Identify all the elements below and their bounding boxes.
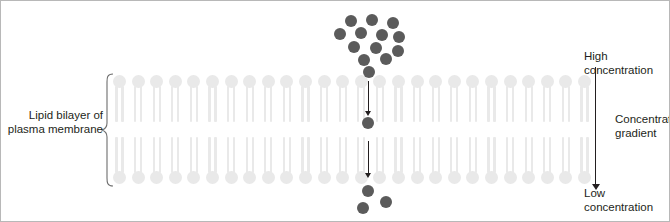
phospholipid-tail bbox=[568, 86, 570, 122]
phospholipid-tail bbox=[233, 137, 235, 173]
phospholipid-tail bbox=[326, 86, 328, 122]
phospholipid bbox=[243, 75, 256, 122]
phospholipid-tail bbox=[438, 137, 440, 173]
solute-particle-above-membrane bbox=[376, 29, 388, 41]
phospholipid-tail bbox=[140, 137, 142, 173]
phospholipid-head-icon bbox=[280, 171, 293, 184]
phospholipid bbox=[448, 75, 461, 122]
phospholipid-tail bbox=[196, 86, 198, 122]
phospholipid-tail bbox=[580, 137, 582, 173]
phospholipid-tail bbox=[196, 137, 198, 173]
phospholipid-head-icon bbox=[225, 171, 238, 184]
solute-particle-above-membrane bbox=[363, 66, 375, 78]
phospholipid-tail bbox=[307, 86, 309, 122]
phospholipid-head-icon bbox=[466, 171, 479, 184]
phospholipid-tail bbox=[382, 86, 384, 122]
phospholipid-tail bbox=[438, 86, 440, 122]
phospholipid-tail bbox=[525, 137, 527, 173]
phospholipid-head-icon bbox=[243, 171, 256, 184]
phospholipid-tail bbox=[283, 86, 285, 122]
phospholipid-tail bbox=[227, 137, 229, 173]
phospholipid bbox=[132, 137, 145, 184]
phospholipid-tail bbox=[214, 137, 216, 173]
phospholipid-tail bbox=[382, 137, 384, 173]
diffusion-arrow-head-icon bbox=[365, 111, 371, 116]
phospholipid-tail bbox=[208, 86, 210, 122]
phospholipid-tail bbox=[586, 86, 588, 122]
solute-particle-above-membrane bbox=[393, 31, 405, 43]
solute-particle-above-membrane bbox=[366, 14, 378, 26]
phospholipid-tail bbox=[153, 86, 155, 122]
solute-particle-above-membrane bbox=[355, 27, 367, 39]
phospholipid-tail bbox=[363, 137, 365, 173]
solute-particle-above-membrane bbox=[387, 17, 399, 29]
phospholipid bbox=[336, 137, 349, 184]
phospholipid-tail bbox=[531, 137, 533, 173]
phospholipid bbox=[299, 75, 312, 122]
phospholipid-tail bbox=[394, 86, 396, 122]
phospholipid-tail bbox=[475, 86, 477, 122]
solute-particle-inside-membrane bbox=[362, 117, 374, 129]
phospholipid-tail bbox=[487, 86, 489, 122]
phospholipid-tail bbox=[450, 86, 452, 122]
phospholipid-tail bbox=[543, 137, 545, 173]
phospholipid bbox=[243, 137, 256, 184]
phospholipid-tail bbox=[345, 137, 347, 173]
phospholipid-tail bbox=[469, 137, 471, 173]
phospholipid bbox=[429, 137, 442, 184]
phospholipid bbox=[504, 137, 517, 184]
phospholipid bbox=[559, 75, 572, 122]
phospholipid-head-icon bbox=[522, 171, 535, 184]
solute-particle-above-membrane bbox=[392, 45, 404, 57]
phospholipid bbox=[485, 75, 498, 122]
phospholipid-tail bbox=[307, 137, 309, 173]
phospholipid-tail bbox=[339, 137, 341, 173]
solute-particle-above-membrane bbox=[345, 15, 357, 27]
phospholipid-tail bbox=[301, 137, 303, 173]
phospholipid-tail bbox=[320, 137, 322, 173]
phospholipid-tail bbox=[419, 137, 421, 173]
phospholipid-tail bbox=[264, 86, 266, 122]
phospholipid-tail bbox=[270, 137, 272, 173]
phospholipid bbox=[559, 137, 572, 184]
phospholipid-tail bbox=[190, 86, 192, 122]
phospholipid-tail bbox=[326, 137, 328, 173]
phospholipid bbox=[150, 137, 163, 184]
bilayer-label: Lipid bilayer of plasma membrane bbox=[7, 109, 103, 136]
phospholipid-tail bbox=[140, 86, 142, 122]
phospholipid bbox=[280, 137, 293, 184]
solute-particle-below-membrane bbox=[362, 185, 374, 197]
phospholipid bbox=[187, 137, 200, 184]
phospholipid-tail bbox=[270, 86, 272, 122]
low-concentration-label: Low concentration bbox=[584, 187, 670, 214]
solute-particle-above-membrane bbox=[358, 54, 370, 66]
phospholipid-tail bbox=[586, 137, 588, 173]
phospholipid bbox=[150, 75, 163, 122]
phospholipid bbox=[522, 75, 535, 122]
phospholipid-tail bbox=[283, 137, 285, 173]
solute-particle-above-membrane bbox=[370, 42, 382, 54]
phospholipid-tail bbox=[469, 86, 471, 122]
phospholipid-tail bbox=[549, 137, 551, 173]
phospholipid bbox=[318, 137, 331, 184]
phospholipid-tail bbox=[543, 86, 545, 122]
diffusion-arrow-head-icon bbox=[365, 173, 371, 178]
solute-particle-below-membrane bbox=[380, 196, 392, 208]
phospholipid-tail bbox=[562, 86, 564, 122]
phospholipid-tail bbox=[208, 137, 210, 173]
phospholipid-tail bbox=[549, 86, 551, 122]
phospholipid-tail bbox=[493, 86, 495, 122]
phospholipid-tail bbox=[227, 86, 229, 122]
diffusion-arrow-shaft bbox=[368, 81, 369, 111]
phospholipid-head-icon bbox=[411, 171, 424, 184]
phospholipid bbox=[411, 137, 424, 184]
phospholipid bbox=[448, 137, 461, 184]
phospholipid bbox=[578, 75, 591, 122]
phospholipid-tail bbox=[562, 137, 564, 173]
phospholipid-tail bbox=[531, 86, 533, 122]
phospholipid-tail bbox=[246, 86, 248, 122]
high-concentration-label: High concentration bbox=[584, 50, 670, 77]
phospholipid-tail bbox=[456, 86, 458, 122]
phospholipid-tail bbox=[177, 86, 179, 122]
phospholipid-head-icon bbox=[336, 171, 349, 184]
